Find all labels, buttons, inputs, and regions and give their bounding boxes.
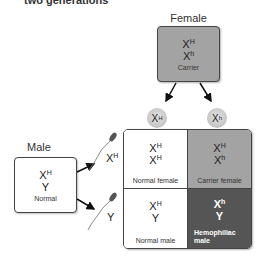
male-allele-1: XH <box>39 169 51 181</box>
punnett-square: XH XH Normal female XH Xh Carrier female… <box>123 129 252 249</box>
sperm-label-2: Y <box>107 211 114 223</box>
arrow-to-sperm-2 <box>77 199 94 209</box>
cell-label: Normal female <box>124 177 187 184</box>
egg-cell-1: XH <box>147 108 167 128</box>
arrow-to-sperm-1 <box>77 164 94 172</box>
cell-label: Normal male <box>124 237 187 244</box>
male-status: Normal <box>34 195 57 202</box>
male-label: Male <box>14 141 64 153</box>
egg-cell-2: Xh <box>207 108 227 128</box>
sperm-label-1: XH <box>106 152 118 164</box>
male-parent-box: XH Y Normal <box>14 157 77 213</box>
arrow-to-egg-2 <box>200 83 211 101</box>
punnett-cell-hemophiliac-male: Xh Y Hemophiliac male <box>188 189 251 248</box>
cell-label: Carrier female <box>188 177 251 184</box>
arrow-to-egg-1 <box>166 83 176 101</box>
punnett-cell-normal-female: XH XH Normal female <box>124 130 188 189</box>
punnett-cell-carrier-female: XH Xh Carrier female <box>188 130 251 189</box>
sperm-icon-1 <box>89 131 118 170</box>
cell-label: Hemophiliac male <box>194 229 238 245</box>
punnett-cell-normal-male: XH Y Normal male <box>124 189 188 248</box>
male-allele-2: Y <box>42 181 49 193</box>
